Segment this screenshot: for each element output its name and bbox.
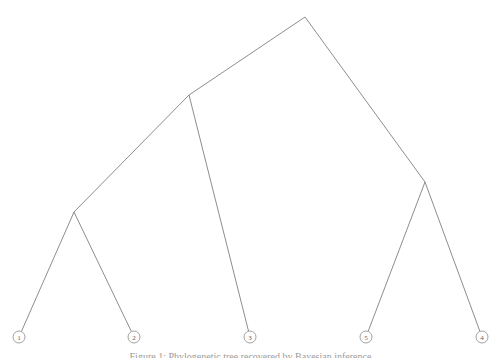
figure-caption: Figure 1: Phylogenetic tree recovered by… <box>0 351 501 358</box>
branch-line <box>189 95 249 331</box>
leaf-nodes-group: 12354 <box>13 331 488 343</box>
leaf-node-1[interactable]: 1 <box>13 331 25 343</box>
branch-line <box>74 95 189 212</box>
tree-canvas: 12354 <box>0 0 501 358</box>
leaf-node-3[interactable]: 3 <box>244 331 256 343</box>
branch-edges-group <box>21 17 480 332</box>
branch-line <box>305 17 425 182</box>
branch-line <box>368 182 425 331</box>
leaf-label: 2 <box>132 334 136 342</box>
leaf-label: 3 <box>248 334 252 342</box>
branch-line <box>425 182 480 331</box>
leaf-node-5[interactable]: 5 <box>360 331 372 343</box>
leaf-node-4[interactable]: 4 <box>476 331 488 343</box>
leaf-label: 4 <box>480 334 484 342</box>
phylogenetic-tree-figure: 12354 Figure 1: Phylogenetic tree recove… <box>0 0 501 358</box>
branch-line <box>74 212 131 332</box>
leaf-node-2[interactable]: 2 <box>128 331 140 343</box>
leaf-label: 5 <box>364 334 368 342</box>
branch-line <box>21 212 74 332</box>
branch-line <box>189 17 305 95</box>
leaf-label: 1 <box>17 334 21 342</box>
